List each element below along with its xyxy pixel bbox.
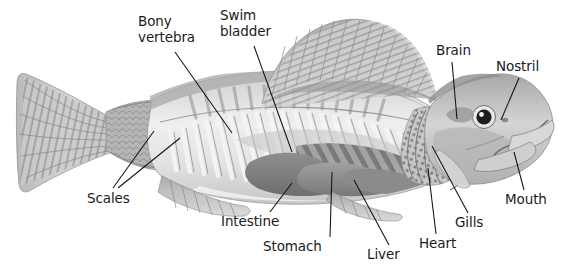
- label-bony-vertebra: Bonyvertebra: [138, 14, 195, 45]
- label-liver: Liver: [367, 247, 400, 262]
- label-heart: Heart: [419, 236, 456, 251]
- label-gills: Gills: [455, 215, 483, 230]
- nostril: [502, 118, 508, 122]
- fish-anatomy-diagram: Bonyvertebra Swimbladder Brain Nostril S…: [0, 0, 571, 275]
- label-intestine: Intestine: [221, 214, 279, 229]
- label-mouth: Mouth: [505, 192, 547, 207]
- label-scales: Scales: [87, 191, 130, 206]
- fish-head: [425, 70, 556, 188]
- label-brain: Brain: [436, 43, 471, 58]
- eye: [473, 106, 496, 129]
- fish-illustration: [0, 0, 571, 275]
- label-stomach: Stomach: [263, 239, 322, 254]
- label-swim-bladder: Swimbladder: [220, 8, 271, 39]
- tail-fin: [10, 60, 120, 200]
- label-nostril: Nostril: [496, 59, 539, 74]
